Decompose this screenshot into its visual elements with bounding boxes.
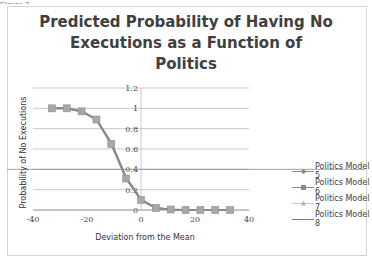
y-tick-label: 0 <box>133 206 138 215</box>
data-marker-square <box>123 175 130 182</box>
y-tick-label: 0.6 <box>125 145 138 154</box>
legend-swatch-x-icon <box>292 215 314 224</box>
legend-label: Politics Model 8 <box>315 210 372 228</box>
data-marker-square <box>48 105 55 112</box>
legend-item-model-5: Politics Model 5 <box>292 163 372 179</box>
legend-item-model-8: Politics Model 8 <box>292 211 372 227</box>
y-tick-label: 0.8 <box>125 125 138 134</box>
legend: Politics Model 5 Politics Model 6 Politi… <box>292 163 372 227</box>
data-marker-square <box>167 206 174 213</box>
data-marker-square <box>182 207 189 214</box>
y-tick-label: 0.4 <box>125 165 138 174</box>
legend-swatch-diamond-icon <box>292 167 314 176</box>
x-tick-label: 0 <box>138 215 143 224</box>
x-axis-label: Deviation from the Mean <box>85 233 205 242</box>
x-tick-label: 20 <box>190 215 200 224</box>
data-marker-square <box>227 207 234 214</box>
y-tick-label: 1 <box>133 104 138 113</box>
legend-item-model-7: Politics Model 7 <box>292 195 372 211</box>
y-tick-label: 1.2 <box>125 84 138 93</box>
x-tick-label: -40 <box>27 215 40 224</box>
data-marker-square <box>212 207 219 214</box>
data-marker-square <box>197 207 204 214</box>
x-tick-label: -20 <box>81 215 94 224</box>
y-axis-label: Probability of No Executions <box>19 78 28 228</box>
data-marker-square <box>152 204 159 211</box>
data-marker-square <box>63 105 70 112</box>
data-marker-square <box>93 116 100 123</box>
data-marker-square <box>78 108 85 115</box>
data-marker-square <box>138 196 145 203</box>
legend-item-model-6: Politics Model 6 <box>292 179 372 195</box>
legend-swatch-square-icon <box>292 183 314 192</box>
data-marker-square <box>108 140 115 147</box>
legend-swatch-triangle-icon <box>292 199 314 208</box>
x-tick-label: 40 <box>244 215 254 224</box>
